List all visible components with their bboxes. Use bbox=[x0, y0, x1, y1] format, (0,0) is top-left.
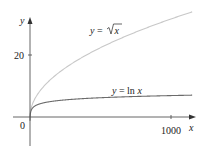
ytick-label-20: 20 bbox=[14, 50, 24, 61]
svg-text:y = ln x: y = ln x bbox=[111, 85, 142, 96]
x-axis-arrow-icon bbox=[189, 115, 196, 120]
x-axis-label: x bbox=[188, 122, 194, 133]
svg-text:y =: y = bbox=[89, 25, 103, 36]
sqrt-curve-label: y = x bbox=[89, 24, 122, 36]
xtick-label-1000: 1000 bbox=[161, 125, 181, 136]
y-axis-label: y bbox=[19, 15, 25, 26]
origin-label: 0 bbox=[20, 120, 25, 131]
svg-text:x: x bbox=[114, 25, 120, 36]
ln-curve-label: y = ln x bbox=[111, 85, 142, 96]
chart: y x 20 0 1000 y = x y = ln x bbox=[0, 0, 207, 153]
y-axis-arrow-icon bbox=[28, 17, 33, 24]
